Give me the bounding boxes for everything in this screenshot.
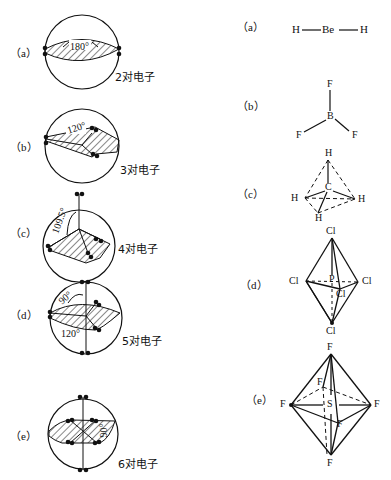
- atom-ch4-h-left: H: [291, 192, 298, 203]
- label-c-left: （c）: [10, 224, 37, 240]
- atom-ch4-c: C: [325, 181, 332, 192]
- atom-pcl5-cl-front: Cl: [336, 288, 345, 299]
- label-e-left: （e）: [10, 427, 37, 443]
- atom-bf3-b: B: [327, 110, 334, 121]
- caption-b: 3对电子: [120, 161, 160, 177]
- atom-sf6-f-bottom: F: [327, 457, 333, 468]
- atom-beh2-h-right: H: [360, 23, 368, 35]
- angle-d-bottom: 120°: [61, 328, 80, 339]
- caption-a: 2对电子: [115, 68, 155, 84]
- atom-ch4-h-bottom: H: [315, 212, 322, 223]
- atom-pcl5-cl-left: Cl: [289, 275, 298, 286]
- atom-sf6-f-right: F: [374, 398, 380, 409]
- label-e-right: （e）: [246, 391, 273, 407]
- angle-a: 180°: [70, 41, 89, 52]
- atom-beh2-h-left: H: [292, 23, 300, 35]
- label-d-right: （d）: [240, 276, 268, 292]
- atom-pcl5-p: P: [329, 273, 335, 284]
- sphere-a: [43, 15, 122, 89]
- atom-ch4-h-top: H: [325, 147, 332, 158]
- caption-e: 6对电子: [118, 455, 158, 471]
- label-a-left: （a）: [10, 44, 37, 60]
- atom-sf6-s: S: [327, 398, 333, 409]
- atom-pcl5-cl-right: Cl: [362, 275, 371, 286]
- label-b-left: （b）: [10, 138, 38, 154]
- atom-pcl5-cl-top: Cl: [326, 225, 335, 236]
- sphere-c: [43, 192, 115, 282]
- atom-ch4-h-right: H: [358, 193, 365, 204]
- atom-sf6-f-top: F: [327, 341, 333, 352]
- atom-sf6-f-front: F: [337, 418, 343, 429]
- atom-pcl5-cl-bottom: Cl: [326, 325, 335, 336]
- caption-c: 4对电子: [118, 240, 158, 256]
- caption-d: 5对电子: [122, 332, 162, 348]
- atom-bf3-f-left: F: [296, 129, 302, 140]
- label-d-left: （d）: [10, 306, 38, 322]
- sphere-d: [48, 280, 122, 356]
- label-c-right: （c）: [237, 185, 264, 201]
- atom-sf6-f-left: F: [280, 398, 286, 409]
- label-b-right: （b）: [237, 97, 265, 113]
- atom-bf3-f-top: F: [327, 78, 333, 89]
- atom-beh2-be: Be: [322, 23, 334, 35]
- angle-e: 90°: [98, 424, 109, 438]
- atom-sf6-f-back: F: [317, 376, 323, 387]
- label-a-right: （a）: [237, 18, 264, 34]
- atom-bf3-f-right: F: [352, 129, 358, 140]
